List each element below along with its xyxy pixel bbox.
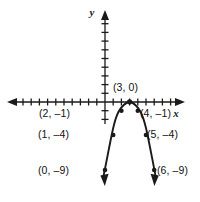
data-point [127, 99, 132, 104]
y-axis-label: y [88, 6, 95, 18]
coordinate-plane-figure: y x (3, 0) (2, –1) (4, –1) (1, –4) (5, –… [0, 0, 200, 202]
curve-arrow-left [100, 174, 108, 186]
x-axis-arrow-right [175, 98, 185, 106]
x-axis-group [7, 98, 185, 106]
point-label-1-neg4: (1, –4) [38, 129, 69, 140]
y-axis-group [101, 10, 109, 124]
y-axis-arrow-up [101, 10, 109, 20]
point-label-2-neg1: (2, –1) [39, 108, 70, 119]
data-point [103, 168, 108, 173]
point-label-0-neg9: (0, –9) [38, 165, 69, 176]
point-label-5-neg4: (5, –4) [147, 129, 178, 140]
data-point [119, 108, 124, 113]
x-axis-arrow-left [7, 98, 17, 106]
point-label-vertex: (3, 0) [113, 82, 138, 93]
x-axis-label: x [172, 107, 179, 119]
data-point [111, 133, 116, 138]
point-label-6-neg9: (6, –9) [157, 165, 188, 176]
data-point [152, 168, 157, 173]
point-label-4-neg1: (4, –1) [140, 108, 171, 119]
